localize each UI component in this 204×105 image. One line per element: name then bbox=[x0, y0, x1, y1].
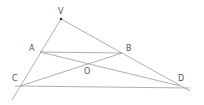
label-B: B bbox=[126, 44, 132, 53]
line-VC bbox=[12, 19, 61, 100]
point-V-dot bbox=[60, 18, 63, 21]
label-A: A bbox=[29, 44, 35, 53]
label-C: C bbox=[12, 74, 18, 83]
label-O: O bbox=[84, 67, 90, 76]
label-D: D bbox=[178, 74, 184, 83]
line-CB bbox=[20, 53, 122, 86]
line-AB bbox=[40, 52, 122, 53]
geometry-diagram: V A B O C D bbox=[0, 0, 204, 105]
label-V: V bbox=[58, 7, 64, 16]
line-CD bbox=[15, 86, 190, 88]
line-VD bbox=[61, 19, 190, 91]
